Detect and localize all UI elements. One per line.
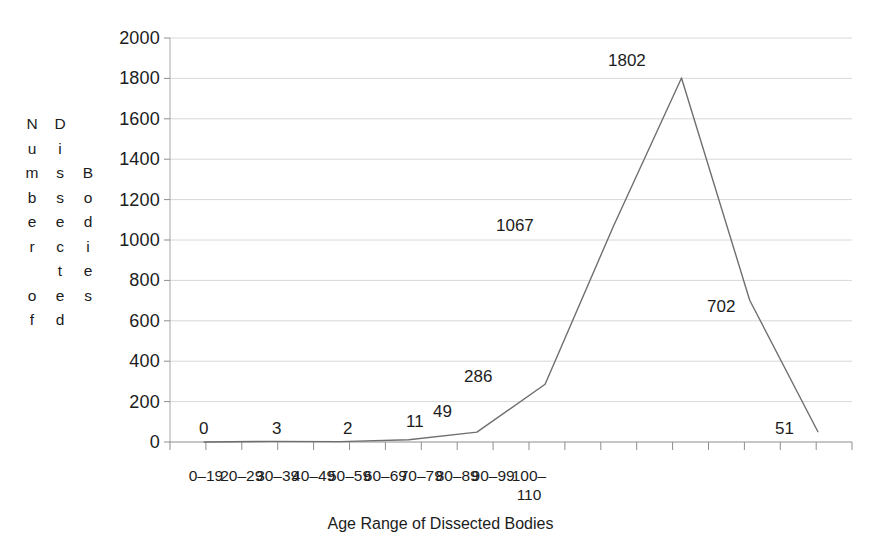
y-axis-title: Numberof Dissected Bodies xyxy=(22,112,132,412)
data-label: 2 xyxy=(343,420,352,437)
y-axis-title-letter: e xyxy=(50,284,70,309)
y-axis-title-letter: s xyxy=(50,186,70,211)
data-label: 1802 xyxy=(608,52,646,69)
y-axis-title-letter: f xyxy=(22,308,42,333)
y-axis-title-letter: s xyxy=(50,161,70,186)
data-label: 51 xyxy=(775,420,794,437)
y-axis-title-letter: e xyxy=(50,210,70,235)
data-label: 3 xyxy=(272,420,281,437)
y-axis-title-letter: i xyxy=(50,137,70,162)
y-axis-title-letter: i xyxy=(78,235,98,260)
y-axis-title-letter: e xyxy=(78,259,98,284)
data-label: 11 xyxy=(406,413,424,430)
y-axis-ticks xyxy=(164,38,170,442)
data-label: 702 xyxy=(707,298,735,315)
y-axis-title-col-3: Bodies xyxy=(78,161,98,308)
y-axis-title-letter: m xyxy=(22,161,42,186)
x-tick-label: 100– 110 xyxy=(477,466,581,504)
y-axis-title-col-1: Numberof xyxy=(22,112,42,333)
y-axis-title-letter xyxy=(22,259,42,284)
y-axis-title-letter: t xyxy=(50,259,70,284)
data-label: 1067 xyxy=(496,217,534,234)
y-axis-title-letter: o xyxy=(78,186,98,211)
y-axis-title-letter: r xyxy=(22,235,42,260)
y-axis-title-letter: N xyxy=(22,112,42,137)
line-chart: 2000 1800 1600 1400 1200 1000 800 600 40… xyxy=(0,0,881,552)
y-axis-title-letter: b xyxy=(22,186,42,211)
y-axis-title-col-2: Dissected xyxy=(50,112,70,333)
x-axis-title: Age Range of Dissected Bodies xyxy=(0,515,881,533)
y-axis-title-letter: B xyxy=(78,161,98,186)
y-axis-title-letter: e xyxy=(22,210,42,235)
data-label: 49 xyxy=(433,403,452,420)
data-label: 286 xyxy=(464,368,492,385)
y-axis-title-letter: u xyxy=(22,137,42,162)
y-axis-title-letter: D xyxy=(50,112,70,137)
y-axis-title-letter: s xyxy=(78,284,98,309)
data-series-line xyxy=(204,78,818,442)
data-label: 0 xyxy=(199,420,208,437)
x-axis-ticks xyxy=(170,442,852,450)
y-axis-title-letter: d xyxy=(78,210,98,235)
y-axis-title-letter: c xyxy=(50,235,70,260)
y-axis-title-letter: o xyxy=(22,284,42,309)
y-axis-title-letter: d xyxy=(50,308,70,333)
